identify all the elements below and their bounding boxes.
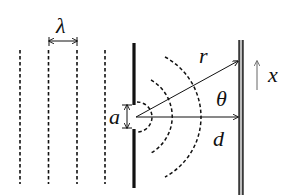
d-label: d: [213, 126, 225, 151]
slit-width-label: a: [109, 104, 120, 129]
plane-wavefronts: [20, 50, 105, 184]
diffraction-diagram: λ a r d θ x: [0, 0, 295, 195]
screen: [239, 40, 243, 195]
wavelength-label: λ: [55, 13, 66, 38]
theta-label: θ: [216, 86, 227, 111]
r-label: r: [199, 43, 208, 68]
x-label: x: [267, 62, 278, 87]
wavelength-marker: [49, 37, 77, 46]
slit-width-marker: [122, 105, 132, 128]
